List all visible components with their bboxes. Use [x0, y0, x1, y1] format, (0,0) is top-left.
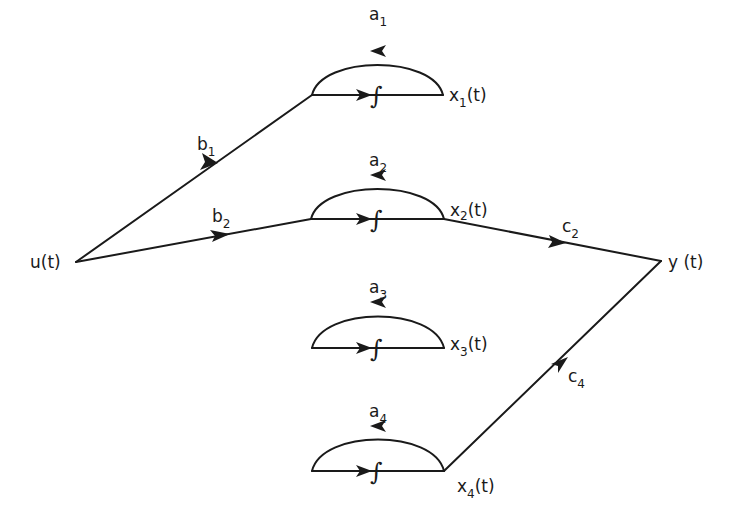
branch-c4: c4 [444, 261, 661, 471]
gain-c4-label: c4 [568, 366, 585, 391]
gain-c2-label: c2 [562, 216, 579, 241]
feedback-a4-label: a4 [369, 401, 387, 426]
feedback-a2-label: a2 [369, 150, 387, 175]
integrator-icon-1: ∫ [370, 82, 383, 110]
branch-c4-line [444, 261, 661, 471]
input-node-label: u(t) [30, 252, 61, 272]
branch-b1-line [76, 95, 312, 262]
feedback-a3-label: a3 [369, 277, 387, 302]
integrator-loop-x4: ∫ a4 x4(t) [312, 401, 495, 501]
gain-b1-label: b1 [197, 134, 215, 159]
feedback-arrow-icon-1 [370, 45, 386, 57]
integrator-loop-x1: ∫ a1 x1(t) [312, 4, 487, 110]
state-x3-label: x3(t) [450, 334, 488, 359]
output-node-label: y (t) [668, 252, 703, 272]
signal-flow-graph: u(t) y (t) b1 b2 c2 c4 ∫ a1 x1(t) [0, 0, 742, 513]
branch-b2-line [76, 219, 311, 262]
feedback-a1-label: a1 [369, 4, 387, 29]
gain-b2-label: b2 [212, 206, 230, 231]
state-x2-label: x2(t) [450, 200, 488, 223]
branch-c2: c2 [444, 216, 661, 261]
branch-b2: b2 [76, 206, 311, 262]
integrator-loop-x2: ∫ a2 x2(t) [311, 150, 488, 234]
state-x1-label: x1(t) [449, 85, 487, 110]
integrator-loop-x3: ∫ a3 x3(t) [312, 277, 488, 363]
integrator-icon-2: ∫ [370, 206, 383, 234]
branch-b1: b1 [76, 95, 312, 262]
integrator-icon-4: ∫ [370, 458, 383, 486]
integrator-icon-3: ∫ [370, 335, 383, 363]
state-x4-label: x4(t) [457, 476, 495, 501]
